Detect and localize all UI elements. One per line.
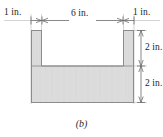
dimension-label-right-1in: 1 in.: [133, 8, 150, 18]
figure-caption: (b): [0, 118, 163, 129]
dimension-label-6in: 6 in.: [71, 9, 88, 19]
figure-panel-b: 1 in. 6 in. 1 in. 2 in. 2 in. (b): [0, 0, 163, 137]
u-channel-drawing: [0, 0, 163, 137]
dimension-label-upper-2in: 2 in.: [145, 43, 162, 53]
dimension-left-1in: [31, 17, 42, 25]
dimension-right-1in: [124, 17, 135, 25]
dimension-vertical-chain: [137, 31, 145, 103]
dimension-label-lower-2in: 2 in.: [145, 79, 162, 89]
dimension-label-left-1in: 1 in.: [4, 8, 21, 18]
